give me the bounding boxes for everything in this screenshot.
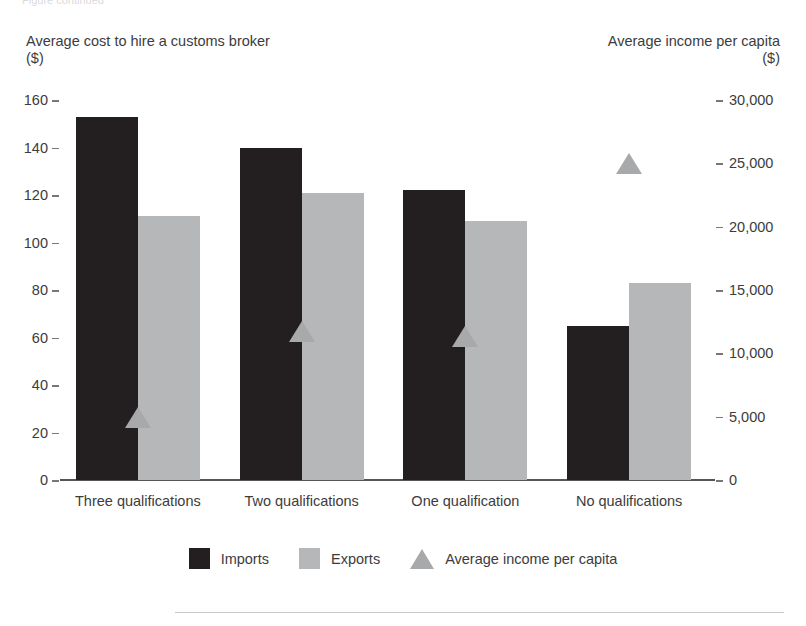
y-axis-tick-label: 60 (32, 330, 48, 346)
y-axis-tick-label: 20 (32, 425, 48, 441)
y2-axis-tick-label: 25,000 (729, 155, 773, 171)
income-marker (452, 326, 478, 347)
y2-axis-tick-label: 20,000 (729, 219, 773, 235)
right-axis-caption: Average income per capita ($) (608, 33, 780, 67)
legend-item: Exports (299, 548, 380, 569)
x-axis-category-label: Two qualifications (244, 493, 358, 509)
y-axis-tick-label: 160 (24, 92, 48, 108)
y-axis-tick-label: 120 (24, 187, 48, 203)
legend-item: Average income per capita (410, 549, 617, 569)
bar-exports (138, 216, 200, 480)
y2-axis-tick (716, 290, 723, 292)
bar-exports (629, 283, 691, 480)
income-marker (616, 153, 642, 174)
y2-axis-tick-label: 0 (729, 472, 737, 488)
chart-legend: ImportsExportsAverage income per capita (0, 548, 806, 569)
clipped-header-artifact: Figure continued (22, 0, 442, 7)
plot-area: 02040608010012014016005,00010,00015,0002… (60, 100, 715, 480)
y-axis-tick (52, 100, 59, 102)
legend-label: Average income per capita (445, 551, 617, 567)
y2-axis-tick-label: 15,000 (729, 282, 773, 298)
legend-item: Imports (189, 548, 269, 569)
square-swatch-icon (189, 548, 210, 569)
chart-figure: Figure continued Average cost to hire a … (0, 0, 806, 626)
triangle-swatch-icon (410, 549, 434, 569)
legend-label: Exports (331, 551, 380, 567)
bar-imports (240, 148, 302, 481)
y-axis-tick-label: 80 (32, 282, 48, 298)
y-axis-tick (52, 433, 59, 435)
y2-axis-tick (716, 227, 723, 229)
y-axis-tick (52, 243, 59, 245)
x-axis-category-label: No qualifications (576, 493, 682, 509)
y-axis-tick (52, 480, 59, 482)
y2-axis-tick-label: 10,000 (729, 345, 773, 361)
y-axis-tick (52, 148, 59, 150)
y-axis-tick (52, 338, 59, 340)
clipped-header-text: Figure continued (22, 0, 442, 6)
y2-axis-tick (716, 417, 723, 419)
y-axis-tick-label: 0 (40, 472, 48, 488)
left-axis-caption: Average cost to hire a customs broker ($… (26, 33, 270, 67)
y-axis-tick (52, 290, 59, 292)
bar-exports (465, 221, 527, 480)
x-axis-category-label: Three qualifications (75, 493, 201, 509)
legend-label: Imports (221, 551, 269, 567)
bar-imports (567, 326, 629, 480)
y-axis-tick-label: 40 (32, 377, 48, 393)
y-axis-tick-label: 140 (24, 140, 48, 156)
footer-rule (175, 612, 784, 613)
y2-axis-tick (716, 163, 723, 165)
y2-axis-tick-label: 30,000 (729, 92, 773, 108)
income-marker (125, 407, 151, 428)
y-axis-tick (52, 385, 59, 387)
income-marker (289, 321, 315, 342)
y2-axis-tick (716, 353, 723, 355)
y-axis-tick (52, 195, 59, 197)
y-axis-tick-label: 100 (24, 235, 48, 251)
x-axis-category-label: One qualification (411, 493, 519, 509)
y2-axis-tick-label: 5,000 (729, 409, 765, 425)
square-swatch-icon (299, 548, 320, 569)
y2-axis-tick (716, 480, 723, 482)
y2-axis-tick (716, 100, 723, 102)
